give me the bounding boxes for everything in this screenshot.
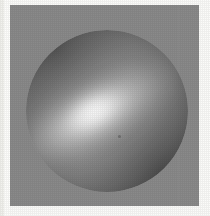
sphere-rim-shading	[26, 30, 188, 192]
render-canvas: Shaded Sphere Computer-rendered 3D spher…	[0, 0, 210, 216]
sphere-clip-mask	[26, 30, 188, 192]
sphere-object	[26, 30, 188, 192]
